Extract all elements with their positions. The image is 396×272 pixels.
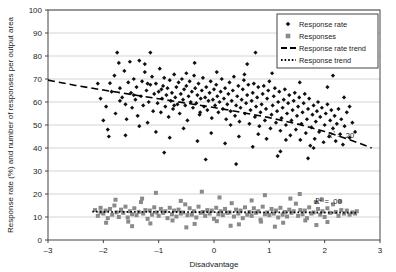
data-point-responses — [154, 191, 158, 195]
y-tick-label: 70 — [33, 75, 42, 84]
data-point-responses — [139, 200, 143, 204]
scatter-plot-figure: 0102030405060708090100–3–2–10123Disadvan… — [0, 0, 396, 272]
data-point-responses — [200, 190, 204, 194]
r-squared-responses: R2 = .00 — [314, 196, 342, 206]
data-point-responses — [168, 206, 172, 210]
data-point-responses — [296, 214, 300, 218]
data-point-responses — [188, 206, 192, 210]
data-point-responses — [241, 216, 245, 220]
data-point-responses — [229, 224, 233, 228]
x-tick-label: –1 — [154, 246, 163, 255]
data-point-responses — [215, 219, 219, 223]
data-point-responses — [179, 199, 183, 203]
legend-label: Response rate trend — [299, 44, 366, 53]
data-point-responses — [159, 207, 163, 211]
data-point-responses — [303, 218, 307, 222]
data-point-responses — [140, 197, 144, 201]
y-tick-label: 90 — [33, 29, 42, 38]
data-point-responses — [237, 222, 241, 226]
legend-label: Responses — [299, 32, 336, 41]
data-point-responses — [298, 208, 302, 212]
data-point-responses — [106, 216, 110, 220]
data-point-responses — [203, 214, 207, 218]
y-tick-label: 20 — [33, 190, 42, 199]
data-point-responses — [221, 213, 225, 217]
data-point-responses — [223, 207, 227, 211]
data-point-responses — [185, 213, 189, 217]
data-point-responses — [99, 206, 103, 210]
y-tick-label: 50 — [33, 121, 42, 130]
data-point-responses — [250, 214, 254, 218]
data-point-responses — [232, 215, 236, 219]
data-point-responses — [234, 208, 238, 212]
data-point-responses — [150, 213, 154, 217]
data-point-responses — [261, 205, 265, 209]
data-point-responses — [259, 220, 263, 224]
data-point-responses — [230, 201, 234, 205]
data-point-responses — [298, 192, 302, 196]
data-point-responses — [108, 207, 112, 211]
data-point-responses — [157, 214, 161, 218]
legend-label: Response trend — [299, 56, 351, 65]
y-tick-label: 80 — [33, 52, 42, 61]
data-point-responses — [294, 202, 298, 206]
data-point-responses — [96, 214, 100, 218]
data-point-responses — [270, 207, 274, 211]
x-tick-label: 3 — [378, 246, 383, 255]
data-point-responses — [123, 205, 127, 209]
r-squared-response-rate: R2 = .20 — [326, 130, 354, 140]
data-point-responses — [252, 206, 256, 210]
x-axis-label: Disadvantage — [190, 260, 239, 269]
data-point-responses — [307, 205, 311, 209]
y-tick-label: 10 — [33, 213, 42, 222]
data-point-responses — [267, 213, 271, 217]
y-tick-label: 0 — [38, 236, 43, 245]
data-point-responses — [148, 221, 152, 225]
x-tick-label: –2 — [99, 246, 108, 255]
chart-canvas: 0102030405060708090100–3–2–10123Disadvan… — [0, 0, 396, 272]
data-point-responses — [117, 215, 121, 219]
data-point-responses — [325, 220, 329, 224]
data-point-responses — [250, 198, 254, 202]
y-tick-label: 30 — [33, 167, 42, 176]
data-point-responses — [285, 215, 289, 219]
data-point-responses — [197, 205, 201, 209]
data-point-responses — [130, 224, 134, 228]
data-point-responses — [314, 223, 318, 227]
x-tick-label: 0 — [212, 246, 217, 255]
legend-marker-square-icon — [286, 34, 291, 39]
data-point-responses — [126, 215, 130, 219]
x-tick-label: –3 — [44, 246, 53, 255]
data-point-responses — [130, 212, 134, 216]
data-point-responses — [171, 218, 175, 222]
y-tick-label: 100 — [29, 6, 43, 15]
data-point-responses — [104, 221, 108, 225]
data-point-responses — [193, 222, 197, 226]
data-point-responses — [132, 206, 136, 210]
data-point-responses — [243, 205, 247, 209]
data-point-responses — [194, 215, 198, 219]
data-point-responses — [273, 225, 277, 229]
data-point-responses — [288, 197, 292, 201]
y-tick-label: 40 — [33, 144, 42, 153]
x-tick-label: 1 — [267, 246, 272, 255]
data-point-responses — [218, 195, 222, 199]
data-point-responses — [325, 206, 329, 210]
data-point-responses — [183, 202, 187, 206]
data-point-responses — [112, 204, 116, 208]
data-point-responses — [339, 208, 343, 212]
data-point-responses — [316, 207, 320, 211]
data-point-responses — [126, 220, 130, 224]
data-point-responses — [337, 214, 341, 218]
data-point-responses — [114, 198, 118, 202]
x-tick-label: 2 — [322, 246, 327, 255]
y-tick-label: 60 — [33, 98, 42, 107]
data-point-responses — [263, 193, 267, 197]
data-point-responses — [276, 215, 280, 219]
data-point-responses — [190, 213, 194, 217]
data-point-responses — [214, 206, 218, 210]
data-point-responses — [323, 215, 327, 219]
data-point-responses — [146, 217, 150, 221]
legend-label: Response rate — [299, 20, 347, 29]
data-point-responses — [278, 206, 282, 210]
